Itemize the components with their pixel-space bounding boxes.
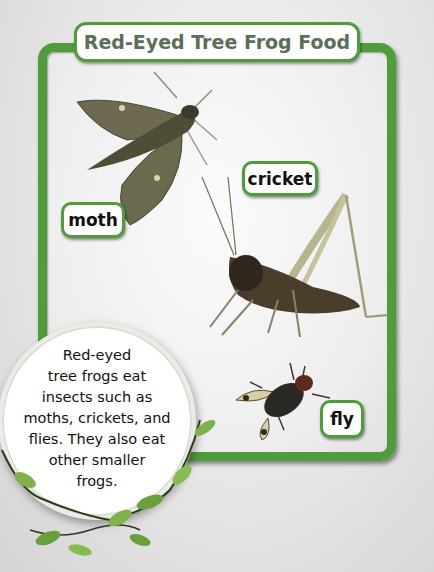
callout-line: frogs. [23, 471, 170, 492]
callout-line: flies. They also eat [23, 429, 170, 450]
info-callout: Red-eyed tree frogs eat insects such as … [0, 322, 196, 520]
label-moth: moth [61, 202, 125, 238]
label-cricket: cricket [242, 161, 318, 196]
callout-line: insects such as [23, 387, 170, 408]
callout-line: other smaller [23, 450, 170, 471]
callout-line: Red-eyed [23, 345, 170, 366]
page-title: Red-Eyed Tree Frog Food [74, 22, 360, 62]
cricket-image [198, 175, 388, 340]
label-fly: fly [320, 400, 364, 438]
callout-text: Red-eyed tree frogs eat insects such as … [23, 345, 170, 492]
fly-image [232, 358, 332, 443]
callout-line: moths, crickets, and [23, 408, 170, 429]
callout-line: tree frogs eat [23, 366, 170, 387]
